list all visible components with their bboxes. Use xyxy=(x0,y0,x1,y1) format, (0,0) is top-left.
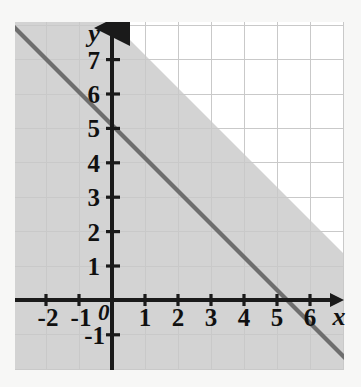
y-tick-label-7: 7 xyxy=(88,47,101,74)
x-tick-label-neg1: -1 xyxy=(71,304,92,331)
figure-root: 7 6 5 4 3 2 1 -1 -2 -1 1 2 3 4 5 6 0 y x xyxy=(0,0,361,387)
y-axis-label: y xyxy=(85,19,100,48)
x-tick-label-2: 2 xyxy=(172,304,185,331)
y-tick-label-3: 3 xyxy=(88,184,101,211)
y-tick-label-1: 1 xyxy=(88,253,101,280)
x-tick-label-5: 5 xyxy=(271,304,284,331)
x-tick-label-4: 4 xyxy=(238,304,251,331)
y-tick-label-5: 5 xyxy=(88,115,101,142)
x-tick-label-neg2: -2 xyxy=(38,304,59,331)
x-tick-label-6: 6 xyxy=(304,304,317,331)
y-tick-label-2: 2 xyxy=(88,219,101,246)
coordinate-plane-chart: 7 6 5 4 3 2 1 -1 -2 -1 1 2 3 4 5 6 0 y x xyxy=(0,0,361,387)
y-tick-label-6: 6 xyxy=(88,81,101,108)
x-axis-label: x xyxy=(332,302,346,331)
x-tick-label-3: 3 xyxy=(205,304,218,331)
x-tick-label-1: 1 xyxy=(139,304,152,331)
origin-label: 0 xyxy=(98,300,110,325)
y-tick-label-4: 4 xyxy=(88,150,101,177)
